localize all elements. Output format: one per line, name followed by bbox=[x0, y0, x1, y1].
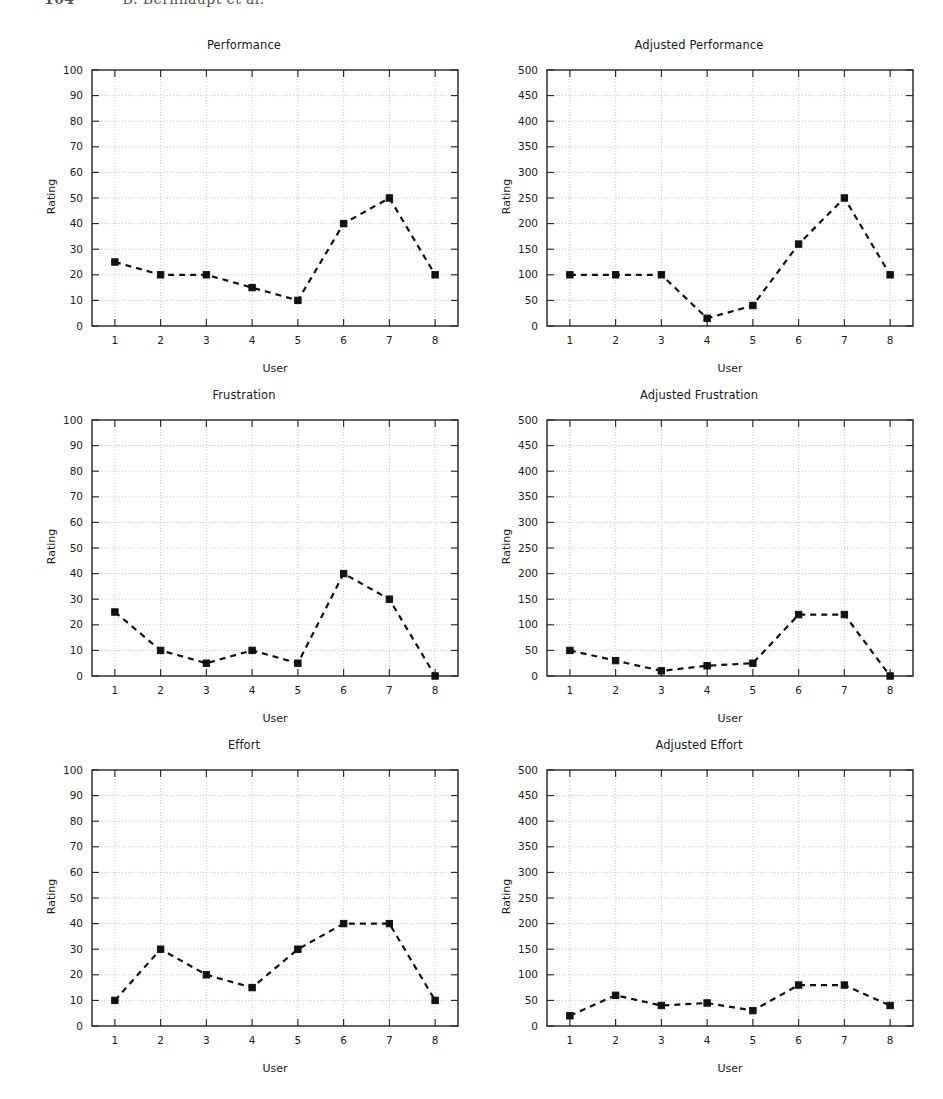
svg-text:0: 0 bbox=[76, 1020, 83, 1032]
svg-text:100: 100 bbox=[518, 968, 538, 980]
chart-panel-adjusted-frustration: Adjusted Frustration 0501001502002503003… bbox=[469, 388, 929, 733]
svg-text:3: 3 bbox=[658, 684, 665, 696]
svg-text:1: 1 bbox=[567, 1034, 574, 1046]
svg-text:350: 350 bbox=[518, 140, 538, 152]
svg-text:500: 500 bbox=[518, 764, 538, 776]
svg-text:60: 60 bbox=[70, 866, 83, 878]
svg-text:70: 70 bbox=[70, 840, 83, 852]
svg-text:6: 6 bbox=[340, 1034, 347, 1046]
svg-text:10: 10 bbox=[70, 294, 83, 306]
svg-text:150: 150 bbox=[518, 243, 538, 255]
y-axis-label: Rating bbox=[45, 852, 58, 942]
svg-text:2: 2 bbox=[157, 684, 164, 696]
svg-text:8: 8 bbox=[887, 334, 894, 346]
svg-text:200: 200 bbox=[518, 917, 538, 929]
svg-text:0: 0 bbox=[76, 320, 83, 332]
svg-text:5: 5 bbox=[295, 334, 302, 346]
svg-text:4: 4 bbox=[704, 1034, 711, 1046]
svg-text:70: 70 bbox=[70, 490, 83, 502]
svg-text:60: 60 bbox=[70, 166, 83, 178]
svg-text:8: 8 bbox=[432, 334, 439, 346]
svg-text:7: 7 bbox=[386, 1034, 393, 1046]
svg-text:50: 50 bbox=[525, 294, 538, 306]
y-axis-label: Rating bbox=[500, 502, 513, 592]
svg-text:1: 1 bbox=[112, 334, 119, 346]
y-axis-label: Rating bbox=[500, 852, 513, 942]
svg-text:30: 30 bbox=[70, 593, 83, 605]
svg-text:2: 2 bbox=[612, 684, 619, 696]
svg-text:0: 0 bbox=[531, 670, 538, 682]
svg-text:300: 300 bbox=[518, 866, 538, 878]
plot-area: 05010015020025030035040045050012345678Ra… bbox=[469, 738, 929, 1088]
svg-text:2: 2 bbox=[157, 334, 164, 346]
svg-text:6: 6 bbox=[340, 684, 347, 696]
svg-text:200: 200 bbox=[518, 217, 538, 229]
svg-text:1: 1 bbox=[567, 334, 574, 346]
y-axis-label: Rating bbox=[45, 502, 58, 592]
svg-text:150: 150 bbox=[518, 593, 538, 605]
svg-text:6: 6 bbox=[795, 1034, 802, 1046]
svg-text:150: 150 bbox=[518, 943, 538, 955]
svg-text:4: 4 bbox=[704, 334, 711, 346]
svg-text:200: 200 bbox=[518, 567, 538, 579]
plot-area: 010203040506070809010012345678RatingUser bbox=[14, 388, 474, 733]
svg-text:8: 8 bbox=[432, 1034, 439, 1046]
svg-text:2: 2 bbox=[157, 1034, 164, 1046]
svg-text:20: 20 bbox=[70, 968, 83, 980]
svg-text:6: 6 bbox=[795, 334, 802, 346]
svg-text:5: 5 bbox=[750, 334, 757, 346]
svg-text:400: 400 bbox=[518, 115, 538, 127]
svg-text:450: 450 bbox=[518, 89, 538, 101]
svg-text:8: 8 bbox=[887, 684, 894, 696]
svg-text:80: 80 bbox=[70, 815, 83, 827]
y-axis-label: Rating bbox=[45, 152, 58, 242]
svg-text:300: 300 bbox=[518, 516, 538, 528]
svg-text:2: 2 bbox=[612, 1034, 619, 1046]
svg-text:7: 7 bbox=[841, 334, 848, 346]
svg-text:50: 50 bbox=[525, 644, 538, 656]
x-axis-label: User bbox=[92, 712, 458, 725]
svg-text:4: 4 bbox=[249, 334, 256, 346]
svg-text:70: 70 bbox=[70, 140, 83, 152]
svg-text:300: 300 bbox=[518, 166, 538, 178]
plot-area: 010203040506070809010012345678RatingUser bbox=[14, 38, 474, 383]
svg-text:30: 30 bbox=[70, 943, 83, 955]
svg-text:5: 5 bbox=[295, 1034, 302, 1046]
svg-text:5: 5 bbox=[750, 1034, 757, 1046]
svg-text:80: 80 bbox=[70, 115, 83, 127]
svg-text:4: 4 bbox=[249, 1034, 256, 1046]
svg-text:1: 1 bbox=[112, 1034, 119, 1046]
svg-text:250: 250 bbox=[518, 192, 538, 204]
svg-text:350: 350 bbox=[518, 840, 538, 852]
svg-text:8: 8 bbox=[432, 684, 439, 696]
svg-text:10: 10 bbox=[70, 994, 83, 1006]
svg-text:90: 90 bbox=[70, 789, 83, 801]
svg-text:3: 3 bbox=[203, 1034, 210, 1046]
svg-text:20: 20 bbox=[70, 268, 83, 280]
svg-text:20: 20 bbox=[70, 618, 83, 630]
svg-text:500: 500 bbox=[518, 414, 538, 426]
x-axis-label: User bbox=[547, 362, 913, 375]
chart-panel-effort: Effort 010203040506070809010012345678Rat… bbox=[14, 738, 474, 1088]
svg-text:90: 90 bbox=[70, 439, 83, 451]
svg-text:250: 250 bbox=[518, 542, 538, 554]
svg-text:30: 30 bbox=[70, 243, 83, 255]
svg-text:0: 0 bbox=[531, 1020, 538, 1032]
svg-text:400: 400 bbox=[518, 465, 538, 477]
x-axis-label: User bbox=[92, 362, 458, 375]
y-axis-label: Rating bbox=[500, 152, 513, 242]
svg-text:50: 50 bbox=[70, 542, 83, 554]
svg-text:100: 100 bbox=[63, 64, 83, 76]
svg-text:3: 3 bbox=[203, 334, 210, 346]
svg-text:450: 450 bbox=[518, 789, 538, 801]
svg-text:10: 10 bbox=[70, 644, 83, 656]
svg-text:7: 7 bbox=[386, 684, 393, 696]
svg-text:0: 0 bbox=[76, 670, 83, 682]
plot-area: 05010015020025030035040045050012345678Ra… bbox=[469, 38, 929, 383]
svg-text:100: 100 bbox=[63, 414, 83, 426]
svg-text:1: 1 bbox=[567, 684, 574, 696]
svg-text:100: 100 bbox=[63, 764, 83, 776]
svg-text:500: 500 bbox=[518, 64, 538, 76]
svg-text:400: 400 bbox=[518, 815, 538, 827]
chart-panel-performance: Performance 0102030405060708090100123456… bbox=[14, 38, 474, 383]
